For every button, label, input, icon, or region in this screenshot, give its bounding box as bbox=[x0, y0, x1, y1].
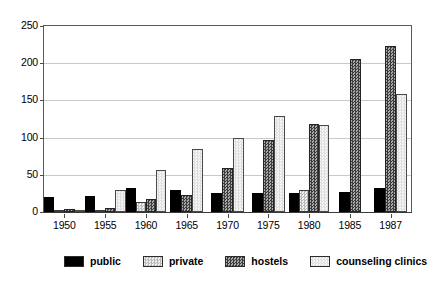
x-tick-label: 1987 bbox=[371, 219, 411, 231]
bar bbox=[126, 188, 136, 212]
bar bbox=[350, 59, 361, 212]
legend-item-counseling-clinics: counseling clinics bbox=[310, 255, 427, 267]
legend-item-hostels: hostels bbox=[225, 255, 288, 267]
bar-group bbox=[329, 26, 370, 212]
x-tick-mark bbox=[187, 214, 188, 218]
x-tick-mark bbox=[146, 214, 147, 218]
legend-item-public: public bbox=[64, 255, 121, 267]
x-tick-mark bbox=[105, 214, 106, 218]
y-tick-label: 200 bbox=[4, 56, 38, 68]
bar bbox=[85, 196, 95, 212]
bar-group bbox=[44, 26, 85, 212]
legend-label: public bbox=[90, 255, 121, 267]
bar bbox=[115, 190, 125, 212]
bar bbox=[289, 193, 299, 212]
legend-item-private: private bbox=[143, 255, 203, 267]
bar-group bbox=[289, 26, 330, 212]
bar bbox=[156, 170, 166, 212]
bars-layer bbox=[44, 26, 411, 212]
chart-legend: publicprivatehostelscounseling clinics bbox=[64, 252, 404, 270]
y-axis: 050100150200250 bbox=[0, 25, 38, 213]
bar bbox=[95, 210, 105, 212]
x-tick-label: 1965 bbox=[167, 219, 207, 231]
legend-label: private bbox=[169, 255, 203, 267]
bar bbox=[54, 210, 64, 212]
bar-group bbox=[248, 26, 289, 212]
bar bbox=[222, 168, 233, 212]
legend-swatch bbox=[143, 256, 163, 267]
bar bbox=[374, 188, 385, 212]
bar bbox=[274, 116, 285, 212]
x-tick-mark bbox=[309, 214, 310, 218]
bar bbox=[64, 209, 74, 212]
bar bbox=[146, 199, 156, 212]
legend-swatch bbox=[64, 256, 84, 267]
x-tick-label: 1980 bbox=[289, 219, 329, 231]
y-tick-label: 150 bbox=[4, 93, 38, 105]
x-tick-mark bbox=[350, 214, 351, 218]
bar-group bbox=[85, 26, 126, 212]
bar-chart-figure: 050100150200250 195019551960196519701975… bbox=[0, 0, 429, 282]
x-tick-label: 1975 bbox=[248, 219, 288, 231]
bar-group bbox=[370, 26, 411, 212]
bar bbox=[211, 193, 222, 212]
x-tick-label: 1955 bbox=[85, 219, 125, 231]
bar bbox=[136, 202, 146, 212]
bar bbox=[309, 124, 319, 212]
bar bbox=[319, 125, 329, 212]
x-tick-mark bbox=[64, 214, 65, 218]
bar bbox=[263, 140, 274, 212]
bar bbox=[396, 94, 407, 212]
x-tick-mark bbox=[268, 214, 269, 218]
bar-group bbox=[126, 26, 167, 212]
legend-swatch bbox=[310, 256, 330, 267]
y-tick-label: 0 bbox=[4, 205, 38, 217]
legend-swatch bbox=[225, 256, 245, 267]
bar bbox=[181, 195, 192, 212]
x-tick-label: 1970 bbox=[208, 219, 248, 231]
x-tick-label: 1985 bbox=[330, 219, 370, 231]
y-tick-label: 250 bbox=[4, 19, 38, 31]
legend-label: counseling clinics bbox=[336, 255, 427, 267]
x-tick-label: 1950 bbox=[44, 219, 84, 231]
x-tick-mark bbox=[228, 214, 229, 218]
bar bbox=[252, 193, 263, 212]
bar bbox=[44, 197, 54, 212]
bar bbox=[192, 149, 203, 212]
x-tick-label: 1960 bbox=[126, 219, 166, 231]
bar bbox=[385, 46, 396, 212]
bar-group bbox=[166, 26, 207, 212]
x-tick-mark bbox=[391, 214, 392, 218]
bar bbox=[75, 210, 85, 212]
x-axis: 195019551960196519701975198019851987 bbox=[44, 214, 411, 236]
bar bbox=[299, 190, 309, 212]
legend-label: hostels bbox=[251, 255, 288, 267]
bar bbox=[170, 190, 181, 212]
y-tick-mark bbox=[40, 212, 44, 213]
y-tick-label: 100 bbox=[4, 131, 38, 143]
y-tick-label: 50 bbox=[4, 168, 38, 180]
bar bbox=[339, 192, 350, 212]
bar-group bbox=[207, 26, 248, 212]
bar bbox=[105, 208, 115, 212]
bar bbox=[233, 138, 244, 212]
